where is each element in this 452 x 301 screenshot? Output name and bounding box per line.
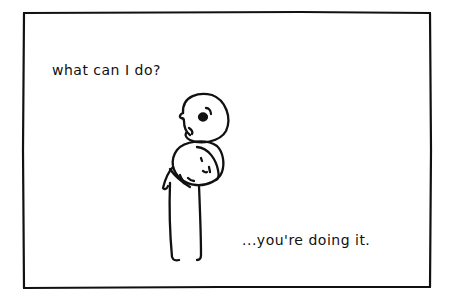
caption-answer: ...you're doing it. <box>242 232 370 248</box>
stick-figure <box>163 94 228 260</box>
caption-question: what can I do? <box>52 62 161 78</box>
comic-drawing <box>0 0 452 301</box>
comic-panel: what can I do? ...you're doing it. <box>0 0 452 301</box>
